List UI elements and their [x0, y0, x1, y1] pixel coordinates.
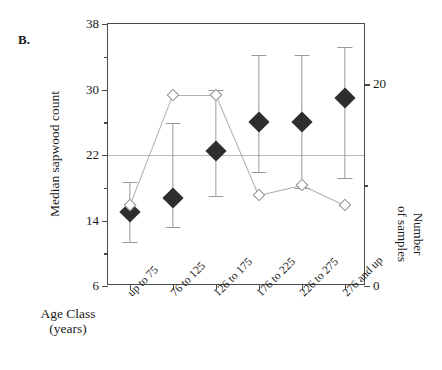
y-axis-tick — [102, 24, 108, 25]
x-axis-title-line1: Age Class — [20, 306, 116, 321]
y2-axis-tick-label: 0 — [373, 278, 380, 294]
median-data-point — [162, 187, 183, 208]
error-bar-cap — [337, 178, 352, 179]
error-bar — [172, 123, 173, 227]
error-bar-cap — [251, 172, 266, 173]
y2-axis-tick — [364, 84, 370, 85]
y-axis-tick-label: 14 — [86, 213, 99, 229]
sample-count-data-point — [338, 199, 351, 212]
error-bar-cap — [251, 55, 266, 56]
figure-panel-b: B. Median sapwood count Number of sample… — [0, 0, 442, 370]
y-axis-minor-tick — [104, 188, 108, 189]
y-axis-tick — [102, 155, 108, 156]
y2-axis-title-text-2: of samples — [394, 206, 410, 262]
error-bar-cap — [294, 55, 309, 56]
error-bar-cap — [165, 227, 180, 228]
y2-axis-tick-label: 20 — [373, 76, 386, 92]
error-bar-cap — [122, 242, 137, 243]
y-axis-title: Median sapwood count — [46, 23, 64, 285]
y-axis-tick-label: 22 — [86, 147, 99, 163]
median-data-point — [248, 112, 269, 133]
y2-axis-minor-tick — [364, 185, 368, 186]
reference-line — [108, 155, 364, 156]
y-axis-minor-tick — [104, 122, 108, 123]
y2-axis-title-text-1: Number — [410, 213, 426, 256]
median-data-point — [205, 140, 226, 161]
y2-axis-tick — [364, 286, 370, 287]
panel-label: B. — [18, 32, 30, 48]
y-axis-tick — [102, 286, 108, 287]
sample-count-data-point — [166, 88, 179, 101]
y-axis-tick — [102, 221, 108, 222]
error-bar-cap — [208, 196, 223, 197]
sample-count-data-point — [252, 189, 265, 202]
error-bar-cap — [337, 47, 352, 48]
y-axis-tick-label: 30 — [86, 82, 99, 98]
y-axis-tick-label: 38 — [86, 16, 99, 32]
x-axis-title-line2: (years) — [20, 321, 116, 336]
sample-count-data-point — [295, 179, 308, 192]
median-data-point — [334, 87, 355, 108]
sample-count-line-segment — [129, 95, 173, 206]
y2-axis-title-line2: of samples — [392, 226, 412, 346]
y-axis-minor-tick — [104, 57, 108, 58]
y-axis-tick-label: 6 — [93, 278, 100, 294]
y-axis-title-text: Median sapwood count — [47, 91, 63, 217]
plot-area: 614223038020 — [107, 23, 365, 285]
median-data-point — [291, 112, 312, 133]
x-axis-title: Age Class (years) — [20, 306, 116, 336]
error-bar — [344, 47, 345, 178]
error-bar-cap — [122, 182, 137, 183]
y-axis-minor-tick — [104, 253, 108, 254]
error-bar-cap — [165, 123, 180, 124]
y-axis-tick — [102, 90, 108, 91]
